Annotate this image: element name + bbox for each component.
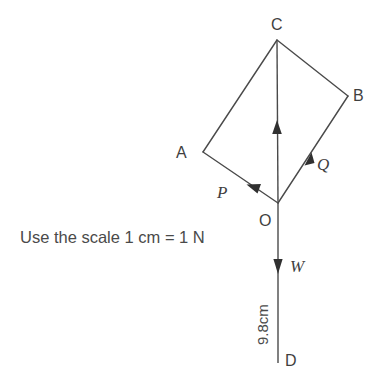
weight-arrowhead-icon <box>273 259 282 274</box>
p-arrowhead-icon <box>247 184 262 194</box>
diagram-canvas: A B C O D P Q W Use the scale 1 cm = 1 N… <box>0 0 375 385</box>
edge-a-c <box>203 40 277 152</box>
scale-note: Use the scale 1 cm = 1 N <box>20 228 205 246</box>
dimension-label-9-8cm: 9.8cm <box>254 304 271 345</box>
vertex-label-a: A <box>176 144 187 161</box>
vertex-label-b: B <box>353 87 364 104</box>
edge-o-a <box>203 152 278 203</box>
resultant-arrowhead-icon <box>272 120 282 134</box>
force-label-p: P <box>216 183 227 202</box>
vertex-label-c: C <box>271 16 283 33</box>
force-parallelogram-figure: A B C O D P Q W Use the scale 1 cm = 1 N… <box>0 0 375 385</box>
vertex-label-d: D <box>285 352 297 369</box>
vertex-label-o: O <box>259 212 271 229</box>
force-label-q: Q <box>317 155 329 174</box>
force-label-w: W <box>290 257 306 276</box>
edge-b-o <box>278 96 348 203</box>
edge-c-b <box>277 40 348 96</box>
